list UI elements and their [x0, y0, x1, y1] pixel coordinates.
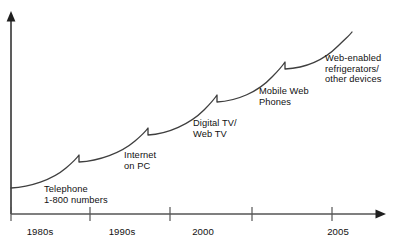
x-axis-tick-label-1990s: 1990s [109, 226, 136, 237]
x-axis-tick-label-1980s: 1980s [27, 226, 54, 237]
y-axis-arrow-icon [7, 11, 16, 22]
annotation-internet-line2: on PC [124, 161, 156, 172]
annotation-mobile-web-phones: Mobile Web Phones [259, 86, 309, 107]
x-axis-tick-label-2005: 2005 [327, 226, 349, 237]
annotation-web-enabled-line2: refrigerators/ [325, 64, 382, 75]
x-axis-arrow-icon [376, 209, 387, 218]
x-axis-tick-label-2000: 2000 [192, 226, 214, 237]
annotation-web-enabled-line1: Web-enabled [325, 53, 382, 64]
chart-figure: Telephone 1-800 numbers Internet on PC D… [0, 0, 395, 250]
annotation-telephone: Telephone 1-800 numbers [44, 184, 108, 205]
annotation-digital-tv-line2: Web TV [193, 129, 237, 140]
annotation-digital-tv: Digital TV/ Web TV [193, 118, 237, 139]
annotation-mobile-web-line1: Mobile Web [259, 86, 309, 97]
cropped-title-artifact [34, 0, 284, 4]
annotation-telephone-line2: 1-800 numbers [44, 195, 108, 206]
annotation-telephone-line1: Telephone [44, 184, 108, 195]
annotation-web-enabled-devices: Web-enabled refrigerators/ other devices [325, 53, 382, 85]
growth-curve-path [11, 32, 352, 188]
annotation-web-enabled-line3: other devices [325, 74, 382, 85]
annotation-digital-tv-line1: Digital TV/ [193, 118, 237, 129]
annotation-mobile-web-line2: Phones [259, 97, 309, 108]
annotation-internet-on-pc: Internet on PC [124, 150, 156, 171]
annotation-internet-line1: Internet [124, 150, 156, 161]
